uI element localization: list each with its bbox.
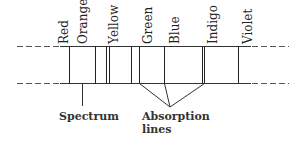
color-label-yellow: Yellow xyxy=(107,4,121,45)
absorption-label-line2: lines xyxy=(142,123,172,136)
absorption-label-line1: Absorption xyxy=(141,110,210,123)
color-label-green: Green xyxy=(141,6,155,44)
spectral-lines xyxy=(70,47,239,84)
color-labels: Red Orange Yellow Green Blue Indigo Viol… xyxy=(57,0,255,45)
spectrum-band xyxy=(60,47,251,84)
absorption-pointer-3 xyxy=(170,84,205,108)
dashed-extensions xyxy=(17,47,289,84)
color-label-orange: Orange xyxy=(76,0,90,44)
color-label-indigo: Indigo xyxy=(206,5,220,44)
spectrum-label: Spectrum xyxy=(59,110,119,123)
absorption-spectrum-diagram: Red Orange Yellow Green Blue Indigo Viol… xyxy=(0,0,299,141)
color-label-red: Red xyxy=(57,20,71,44)
callout-pointers xyxy=(83,84,205,108)
color-label-violet: Violet xyxy=(241,9,255,45)
color-label-blue: Blue xyxy=(168,17,182,45)
